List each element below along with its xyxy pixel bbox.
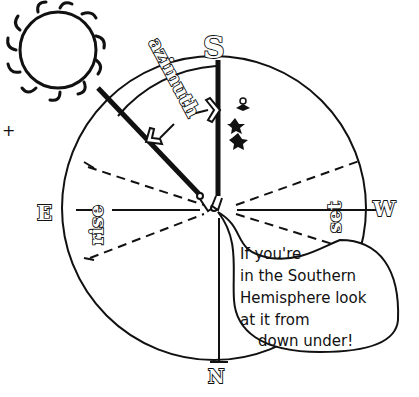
svg-text:down under!: down under! xyxy=(258,332,353,350)
azimuth-label: azimuth xyxy=(144,34,204,121)
set-label: set xyxy=(323,201,345,233)
stars-icon xyxy=(227,98,250,150)
svg-text:at it from: at it from xyxy=(240,311,310,329)
svg-text:Hemisphere look: Hemisphere look xyxy=(240,289,367,307)
compass-east-label: E xyxy=(37,201,52,225)
compass-south-label: S xyxy=(203,30,225,65)
margin-plus-mark: + xyxy=(2,121,15,140)
svg-text:If you're: If you're xyxy=(240,245,301,263)
compass-west-label: W xyxy=(372,197,396,221)
sun-azimuth-diagram: + xyxy=(0,0,419,397)
sun-icon xyxy=(8,2,105,100)
svg-text:in the Southern: in the Southern xyxy=(240,267,356,285)
compass-north-label: N xyxy=(208,366,224,387)
rise-label: rise xyxy=(85,205,107,245)
